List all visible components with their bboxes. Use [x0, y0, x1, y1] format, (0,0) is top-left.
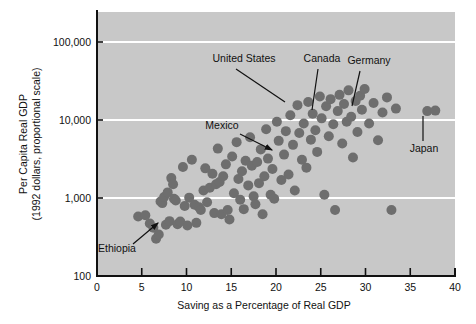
- y-axis-title-line2: (1992 dollars, proportional scale): [30, 68, 42, 221]
- data-point: [168, 179, 178, 189]
- data-point: [324, 131, 334, 141]
- data-point: [306, 135, 316, 145]
- data-point: [288, 140, 298, 150]
- x-axis-title: Saving as a Percentage of Real GDP: [177, 299, 350, 311]
- y-tick-label: 100: [73, 270, 91, 282]
- annotation-label: Germany: [347, 54, 391, 66]
- x-tick-label: 15: [225, 281, 237, 293]
- data-point: [213, 144, 223, 154]
- data-point: [223, 205, 233, 215]
- data-point: [258, 209, 268, 219]
- data-point: [360, 84, 370, 94]
- data-point: [373, 135, 383, 145]
- data-point: [178, 162, 188, 172]
- data-point: [227, 152, 237, 162]
- data-point: [261, 124, 271, 134]
- data-point: [281, 126, 291, 136]
- x-tick-label: 30: [360, 281, 372, 293]
- data-point: [386, 205, 396, 215]
- data-point: [339, 99, 349, 109]
- annotation-label: Japan: [410, 142, 439, 154]
- data-point: [239, 204, 249, 214]
- data-point: [303, 97, 313, 107]
- annotation-label: Ethiopia: [98, 242, 136, 254]
- data-point: [301, 163, 311, 173]
- data-point: [337, 138, 347, 148]
- data-point: [171, 195, 181, 205]
- y-tick-label: 100,000: [53, 36, 91, 48]
- data-point: [430, 106, 440, 116]
- data-point: [250, 199, 260, 209]
- y-axis-title-line1: Per Capita Real GDP: [17, 94, 29, 194]
- data-point: [224, 215, 234, 225]
- annotation-label: Mexico: [205, 119, 238, 131]
- data-point: [319, 190, 329, 200]
- data-point: [369, 98, 379, 108]
- y-tick-label: 10,000: [59, 114, 91, 126]
- data-point: [312, 147, 322, 157]
- data-point: [221, 159, 231, 169]
- data-point: [207, 169, 217, 179]
- x-tick-label: 0: [94, 281, 100, 293]
- data-point: [357, 105, 367, 115]
- data-point: [352, 127, 362, 137]
- data-point: [218, 171, 228, 181]
- y-tick-label: 1,000: [65, 192, 91, 204]
- data-point: [274, 136, 284, 146]
- data-point: [232, 137, 242, 147]
- data-point: [191, 218, 201, 228]
- x-tick-label: 20: [270, 281, 282, 293]
- data-point: [299, 119, 309, 129]
- x-tick-label: 5: [139, 281, 145, 293]
- data-point: [364, 119, 374, 129]
- data-point: [182, 220, 192, 230]
- data-point: [187, 155, 197, 165]
- data-point: [285, 110, 295, 120]
- data-point: [382, 92, 392, 102]
- data-point: [308, 109, 318, 119]
- data-point: [310, 125, 320, 135]
- data-point: [252, 157, 262, 167]
- data-point: [272, 117, 282, 127]
- data-point: [263, 154, 273, 164]
- data-point: [290, 185, 300, 195]
- data-point: [284, 170, 294, 180]
- x-tick-label: 35: [404, 281, 416, 293]
- data-point: [315, 92, 325, 102]
- data-point: [344, 85, 354, 95]
- data-point: [391, 104, 401, 114]
- data-point: [243, 180, 253, 190]
- data-point: [328, 119, 338, 129]
- data-point: [279, 150, 289, 160]
- data-point: [292, 100, 302, 110]
- annotation-label: United States: [212, 52, 275, 64]
- data-point: [196, 205, 206, 215]
- data-point: [202, 197, 212, 207]
- x-tick-label: 10: [181, 281, 193, 293]
- data-point: [326, 94, 336, 104]
- data-point: [330, 205, 340, 215]
- data-point: [317, 113, 327, 123]
- data-point: [269, 194, 279, 204]
- data-point: [259, 171, 269, 181]
- x-tick-label: 25: [315, 281, 327, 293]
- scatter-chart-figure: United StatesCanadaGermanyMexicoJapanEth…: [0, 0, 476, 324]
- data-point: [294, 128, 304, 138]
- data-point: [378, 107, 388, 117]
- data-point: [346, 112, 356, 122]
- chart-svg: United StatesCanadaGermanyMexicoJapanEth…: [0, 0, 476, 324]
- data-point: [348, 153, 358, 163]
- data-point: [154, 230, 164, 240]
- data-point: [237, 166, 247, 176]
- data-point: [267, 164, 277, 174]
- annotation-label: Canada: [304, 52, 341, 64]
- data-point: [335, 90, 345, 100]
- x-tick-label: 40: [449, 281, 461, 293]
- data-point: [235, 195, 245, 205]
